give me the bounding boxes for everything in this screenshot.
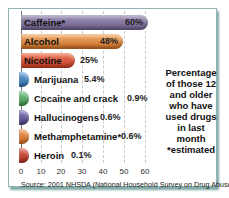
label-caffeine: Caffeine* bbox=[24, 15, 65, 30]
label-alcohol: Alcohol bbox=[24, 34, 59, 49]
value-marijuana: 5.4% bbox=[84, 72, 105, 87]
source-caption: Source: 2001 NHSDA (National Household S… bbox=[21, 180, 229, 189]
label-hallucinogens: Hallucinogens bbox=[34, 110, 99, 125]
label-nicotine: Nicotine bbox=[24, 53, 61, 68]
value-nicotine: 25% bbox=[80, 53, 98, 68]
value-heroin: 0.1% bbox=[71, 148, 92, 163]
x-tick-10: 10 bbox=[37, 167, 46, 176]
bar-hallucinogens bbox=[19, 110, 29, 125]
annotation-line: *estimated bbox=[159, 144, 223, 155]
annotation-line: month bbox=[159, 133, 223, 144]
x-tick-30: 30 bbox=[78, 167, 87, 176]
value-hallucinogens: 0.6% bbox=[100, 110, 121, 125]
annotation-line: who have bbox=[159, 100, 223, 111]
label-methamphetamine: Methamphetamine* bbox=[34, 129, 121, 144]
bar-cocaine bbox=[19, 91, 29, 106]
value-methamphetamine: 0.6% bbox=[121, 129, 142, 144]
x-tick-60: 60 bbox=[141, 167, 150, 176]
chart-annotation: Percentage of those 12 and older who hav… bbox=[159, 67, 223, 155]
label-cocaine: Cocaine and crack bbox=[34, 91, 118, 106]
x-tick-20: 20 bbox=[57, 167, 66, 176]
x-tick-0: 0 bbox=[19, 167, 23, 176]
label-marijuana: Marijuana bbox=[34, 72, 78, 87]
gridline-60 bbox=[145, 11, 146, 163]
chart-frame: Caffeine* 60% Alcohol 48% Nicotine 25% M… bbox=[8, 8, 217, 187]
annotation-line: in last bbox=[159, 122, 223, 133]
annotation-line: Percentage bbox=[159, 67, 223, 78]
annotation-line: and older bbox=[159, 89, 223, 100]
value-cocaine: 0.9% bbox=[127, 91, 148, 106]
value-caffeine: 60% bbox=[125, 15, 143, 30]
x-tick-40: 40 bbox=[99, 167, 108, 176]
bar-heroin bbox=[19, 148, 29, 163]
annotation-line: of those 12 bbox=[159, 78, 223, 89]
value-alcohol: 48% bbox=[100, 34, 118, 49]
bar-methamphetamine bbox=[19, 129, 29, 144]
label-heroin: Heroin bbox=[34, 148, 64, 163]
annotation-line: used drugs bbox=[159, 111, 223, 122]
x-tick-50: 50 bbox=[120, 167, 129, 176]
bar-marijuana bbox=[19, 72, 29, 87]
